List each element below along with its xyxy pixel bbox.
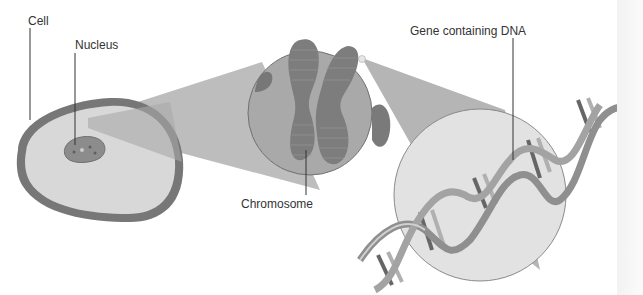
cell-label: Cell [28, 14, 49, 28]
chromosome-circle [248, 39, 390, 175]
gene-label: Gene containing DNA [410, 24, 526, 38]
nucleus-label: Nucleus [75, 38, 118, 52]
page-edge-strip [617, 0, 643, 295]
chromosome-label: Chromosome [241, 197, 313, 211]
cell-diagram: Cell Nucleus Chromosome Gene containing … [0, 0, 643, 295]
